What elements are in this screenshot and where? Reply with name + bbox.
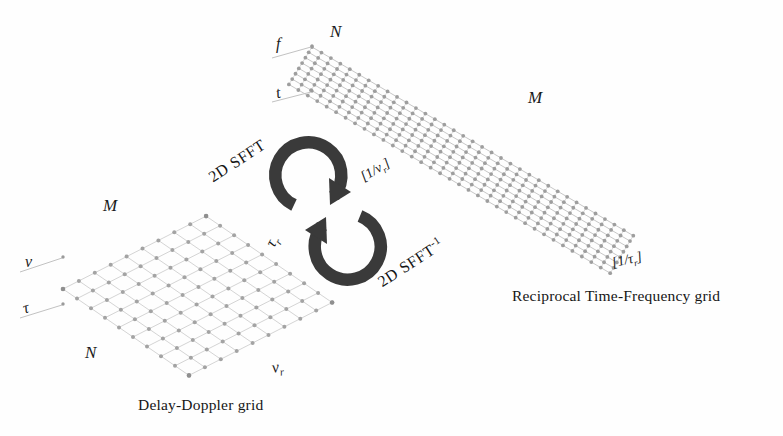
- delay-doppler-grid: [63, 216, 332, 375]
- rtf-caption: Reciprocal Time-Frequency grid: [512, 287, 720, 305]
- delay-doppler-nodes: [61, 214, 335, 378]
- rtf-label-N: N: [330, 22, 341, 42]
- diagram-svg: [0, 0, 783, 436]
- forward-sfft-arrow[interactable]: [275, 142, 351, 205]
- inverse-sfft-arrow[interactable]: [305, 216, 381, 280]
- dd-tick-dot-tau: [61, 302, 64, 305]
- rtf-tick-dot-t: [310, 89, 313, 92]
- rtf-tick-dot-f: [310, 44, 313, 47]
- transform-arrow-group: [275, 142, 380, 279]
- dd-tick-dot-nu: [61, 255, 64, 258]
- dd-caption: Delay-Doppler grid: [138, 396, 263, 414]
- dd-label-N: N: [85, 343, 96, 363]
- rtf-axis-label-f: f: [276, 35, 280, 53]
- rtf-label-M: M: [528, 88, 542, 108]
- brk-right-base: [1/τ: [610, 251, 634, 270]
- dd-label-M: M: [103, 196, 117, 216]
- figure-canvas: M N ν τ τr νr Delay-Doppler grid N M f t…: [0, 0, 783, 436]
- dd-axis-label-nu: ν: [25, 253, 32, 271]
